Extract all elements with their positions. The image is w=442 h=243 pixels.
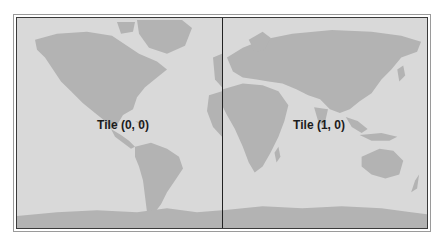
- tile-label: Tile (1, 0): [293, 118, 345, 132]
- tile-label: Tile (0, 0): [97, 118, 149, 132]
- map-frame: Tile (0, 0): [13, 14, 431, 232]
- map-tile-1-0[interactable]: Tile (1, 0): [223, 18, 427, 228]
- map-viewport[interactable]: Tile (0, 0): [16, 17, 428, 229]
- map-tile-0-0[interactable]: Tile (0, 0): [17, 18, 222, 228]
